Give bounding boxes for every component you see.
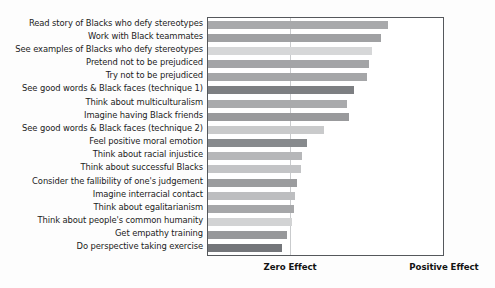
- bar: [208, 47, 372, 55]
- bar-row: [208, 218, 443, 226]
- bar: [208, 218, 292, 226]
- bar: [208, 192, 295, 200]
- y-axis-label: Think about racial injustice: [0, 150, 203, 159]
- axis-caption-positive-effect: Positive Effect: [409, 262, 478, 272]
- bar-row: [208, 34, 443, 42]
- y-axis-label: Get empathy training: [0, 229, 203, 238]
- y-axis-label: See good words & Black faces (technique …: [0, 124, 203, 133]
- y-axis-label: Pretend not to be prejudiced: [0, 58, 203, 67]
- bar: [208, 139, 307, 147]
- bar-row: [208, 60, 443, 68]
- bar: [208, 113, 349, 121]
- bar-row: [208, 73, 443, 81]
- bar-row: [208, 192, 443, 200]
- bar-row: [208, 100, 443, 108]
- bar-row: [208, 139, 443, 147]
- bar-row: [208, 165, 443, 173]
- y-axis-label: Do perspective taking exercise: [0, 242, 203, 251]
- plot-area: [207, 17, 444, 256]
- bar-row: [208, 152, 443, 160]
- y-axis-label: Think about egalitarianism: [0, 203, 203, 212]
- bar: [208, 21, 388, 29]
- y-axis-label: Imagine interracial contact: [0, 190, 203, 199]
- y-axis-label: Consider the fallibility of one's judgem…: [0, 177, 203, 186]
- bar-row: [208, 86, 443, 94]
- bar: [208, 100, 347, 108]
- y-axis-label: Work with Black teammates: [0, 32, 203, 41]
- bar: [208, 244, 282, 252]
- bar: [208, 73, 367, 81]
- axis-caption-zero-effect: Zero Effect: [263, 262, 316, 272]
- bar-chart: Read story of Blacks who defy stereotype…: [0, 0, 495, 288]
- bar-row: [208, 205, 443, 213]
- bar: [208, 34, 381, 42]
- bar-row: [208, 179, 443, 187]
- bar-row: [208, 21, 443, 29]
- bar-row: [208, 47, 443, 55]
- bar-row: [208, 126, 443, 134]
- y-axis-label: Think about multiculturalism: [0, 98, 203, 107]
- bar: [208, 152, 302, 160]
- bar-row: [208, 113, 443, 121]
- bar-row: [208, 244, 443, 252]
- y-axis-category-labels: Read story of Blacks who defy stereotype…: [0, 17, 203, 256]
- bar: [208, 60, 369, 68]
- bar: [208, 231, 287, 239]
- y-axis-label: Think about people's common humanity: [0, 216, 203, 225]
- y-axis-label: Imagine having Black friends: [0, 111, 203, 120]
- y-axis-label: See examples of Blacks who defy stereoty…: [0, 45, 203, 54]
- bar: [208, 205, 294, 213]
- y-axis-label: Read story of Blacks who defy stereotype…: [0, 19, 203, 28]
- bar: [208, 126, 324, 134]
- y-axis-label: Try not to be prejudiced: [0, 71, 203, 80]
- bar: [208, 179, 297, 187]
- y-axis-label: See good words & Black faces (technique …: [0, 84, 203, 93]
- bar: [208, 165, 301, 173]
- bar: [208, 86, 354, 94]
- y-axis-label: Feel positive moral emotion: [0, 137, 203, 146]
- bar-row: [208, 231, 443, 239]
- y-axis-label: Think about successful Blacks: [0, 163, 203, 172]
